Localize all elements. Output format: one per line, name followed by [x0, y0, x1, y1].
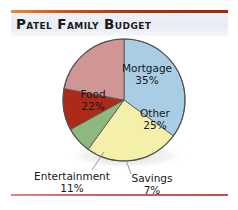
pie-chart-svg: Mortgage 35% Other 25% Food 22% Entertai…	[0, 0, 238, 210]
slice-label-mortgage: Mortgage	[122, 62, 172, 74]
slice-value-other: 25%	[143, 119, 166, 131]
slice-label-entertainment: Entertainment	[34, 170, 110, 182]
slice-label-other: Other	[140, 107, 170, 119]
slice-value-food: 22%	[81, 100, 104, 112]
slice-value-mortgage: 35%	[135, 74, 158, 86]
slice-label-savings: Savings	[131, 172, 172, 184]
slice-value-entertainment: 11%	[60, 182, 83, 194]
pie-chart: Mortgage 35% Other 25% Food 22% Entertai…	[0, 0, 238, 210]
slice-label-food: Food	[80, 88, 105, 100]
chart-figure: Patel Family Budget Mortgage 35% Other 2…	[0, 0, 238, 210]
bottom-divider-rule	[11, 194, 228, 196]
